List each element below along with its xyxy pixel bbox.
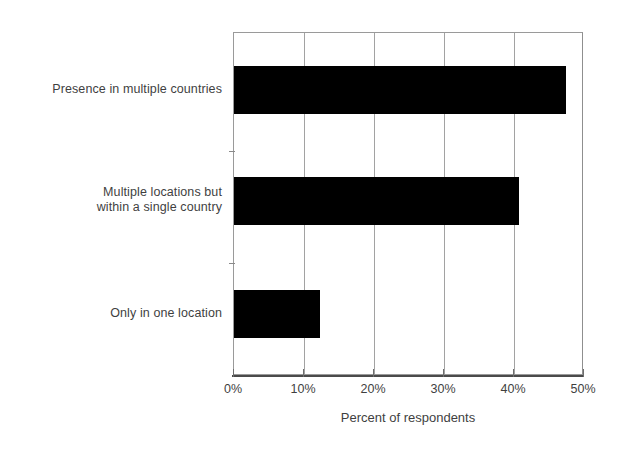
x-axis-line bbox=[232, 375, 584, 377]
category-tick-1 bbox=[229, 151, 235, 152]
plot-area bbox=[233, 32, 583, 375]
category-tick-2 bbox=[229, 263, 235, 264]
x-tick-label-50: 50% bbox=[570, 382, 595, 396]
x-tick-label-10: 10% bbox=[290, 382, 315, 396]
x-axis-title: Percent of respondents bbox=[233, 410, 583, 425]
x-tick-50 bbox=[583, 369, 584, 377]
x-tick-10 bbox=[303, 369, 304, 377]
category-label-presence-multiple-countries: Presence in multiple countries bbox=[52, 82, 222, 97]
category-label-only-one-location: Only in one location bbox=[110, 306, 222, 321]
bar-only-one-location bbox=[234, 290, 320, 338]
x-tick-20 bbox=[373, 369, 374, 377]
bar-presence-multiple-countries bbox=[234, 66, 566, 114]
x-tick-label-0: 0% bbox=[224, 382, 242, 396]
bar-chart-figure: Presence in multiple countries Multiple … bbox=[0, 0, 623, 451]
category-axis-labels: Presence in multiple countries Multiple … bbox=[0, 0, 228, 451]
x-tick-0 bbox=[233, 369, 234, 377]
x-tick-label-30: 30% bbox=[430, 382, 455, 396]
x-tick-40 bbox=[513, 369, 514, 377]
x-tick-label-20: 20% bbox=[360, 382, 385, 396]
x-tick-30 bbox=[443, 369, 444, 377]
bar-multiple-locations-single-country bbox=[234, 177, 519, 225]
category-label-multiple-locations-single-country: Multiple locations but within a single c… bbox=[97, 185, 222, 215]
x-tick-label-40: 40% bbox=[500, 382, 525, 396]
